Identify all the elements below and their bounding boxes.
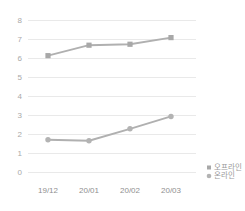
series-offline-line xyxy=(48,38,171,56)
data-point[interactable] xyxy=(168,35,173,40)
y-tick-label: 5 xyxy=(18,73,23,82)
data-point[interactable] xyxy=(45,137,50,142)
y-tick-label: 1 xyxy=(18,149,23,158)
y-tick-label: 8 xyxy=(18,16,23,25)
series-offline-markers xyxy=(45,35,173,58)
x-axis-labels: 19/12 20/01 20/02 20/03 xyxy=(38,186,182,195)
y-tick-label: 3 xyxy=(18,111,23,120)
data-point[interactable] xyxy=(127,42,132,47)
data-point[interactable] xyxy=(127,126,132,131)
y-tick-label: 4 xyxy=(18,92,23,101)
data-point[interactable] xyxy=(86,138,91,143)
y-axis-labels: 8 7 6 5 4 3 2 1 0 xyxy=(18,16,23,177)
x-tick-label: 19/12 xyxy=(38,186,59,195)
legend-item-offline[interactable]: 오프라인 xyxy=(207,162,242,172)
x-tick-label: 20/01 xyxy=(79,186,100,195)
x-tick-label: 20/03 xyxy=(161,186,182,195)
y-tick-label: 2 xyxy=(18,130,23,139)
legend-label-offline: 오프라인 xyxy=(214,162,242,172)
y-tick-label: 7 xyxy=(18,35,23,44)
gridlines xyxy=(28,21,196,173)
chart-legend: 오프라인 온라인 xyxy=(207,162,242,181)
line-chart: 8 7 6 5 4 3 2 1 0 19/12 20/01 20/02 20/0… xyxy=(0,0,245,211)
x-tick-label: 20/02 xyxy=(120,186,141,195)
y-tick-label: 6 xyxy=(18,54,23,63)
legend-item-online[interactable]: 온라인 xyxy=(207,170,235,180)
series-online xyxy=(45,114,173,144)
series-online-line xyxy=(48,116,171,140)
legend-label-online: 온라인 xyxy=(214,170,235,180)
legend-square-marker-icon xyxy=(207,166,211,170)
series-offline xyxy=(45,35,173,58)
legend-circle-marker-icon xyxy=(207,174,212,179)
data-point[interactable] xyxy=(86,43,91,48)
data-point[interactable] xyxy=(168,114,173,119)
chart-canvas: 8 7 6 5 4 3 2 1 0 19/12 20/01 20/02 20/0… xyxy=(0,0,245,211)
y-tick-label: 0 xyxy=(18,168,23,177)
series-online-markers xyxy=(45,114,173,144)
data-point[interactable] xyxy=(45,53,50,58)
